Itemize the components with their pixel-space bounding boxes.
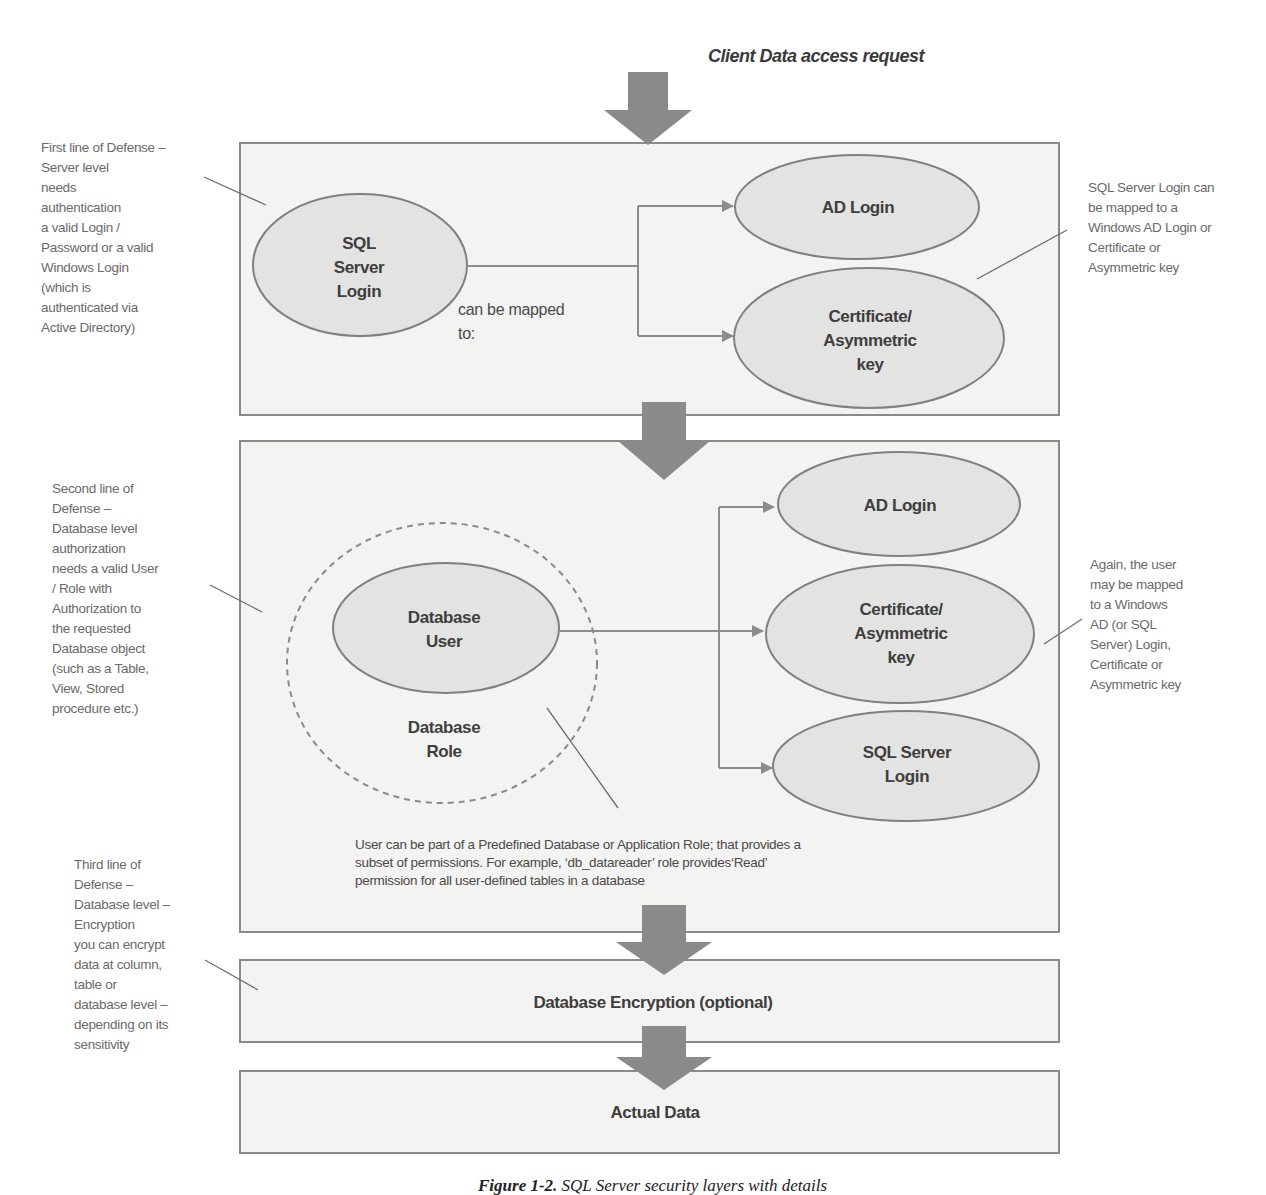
actual-data-label: Actual Data — [610, 1103, 700, 1122]
ad-login-label: AD Login — [822, 198, 894, 217]
db-certificate-line-1: Certificate/ — [859, 600, 943, 619]
database-user-line-2: User — [426, 632, 463, 651]
annotation-second-line-of-defense: Second line of Defense – Database level … — [52, 479, 158, 719]
db-sql-login-line-2: Login — [885, 767, 929, 786]
flow-arrow-request — [604, 72, 692, 145]
security-layers-diagram: SQL Server Login can be mapped to: AD Lo… — [0, 0, 1266, 1195]
figure-caption: Figure 1-2. SQL Server security layers w… — [478, 1176, 827, 1195]
database-user-node — [333, 563, 559, 693]
certificate-line-2: Asymmetric — [823, 331, 916, 350]
certificate-line-1: Certificate/ — [828, 307, 912, 326]
sql-server-login-line-3: Login — [337, 282, 381, 301]
db-sql-login-line-1: SQL Server — [863, 743, 952, 762]
figure-caption-text: SQL Server security layers with details — [562, 1176, 828, 1195]
certificate-line-3: key — [856, 355, 884, 374]
db-sql-server-login-node — [773, 711, 1039, 821]
mapped-label-line-1: can be mapped — [458, 301, 564, 318]
sql-server-login-line-1: SQL — [342, 234, 376, 253]
database-role-line-1: Database — [408, 718, 480, 737]
figure-caption-label: Figure 1-2. — [478, 1176, 557, 1195]
db-certificate-line-2: Asymmetric — [854, 624, 947, 643]
db-certificate-line-3: key — [887, 648, 915, 667]
annotation-third-line-of-defense: Third line of Defense – Database level –… — [74, 855, 170, 1055]
annotation-user-mapping: Again, the user may be mapped to a Windo… — [1090, 555, 1183, 695]
database-user-line-1: Database — [408, 608, 480, 627]
database-role-note: User can be part of a Predefined Databas… — [355, 836, 801, 890]
db-ad-login-label: AD Login — [864, 496, 936, 515]
sql-server-login-line-2: Server — [334, 258, 385, 277]
encryption-label: Database Encryption (optional) — [533, 993, 772, 1012]
annotation-server-login-mapping: SQL Server Login can be mapped to a Wind… — [1088, 178, 1214, 278]
database-role-line-2: Role — [426, 742, 461, 761]
mapped-label-line-2: to: — [458, 325, 475, 342]
annotation-first-line-of-defense: First line of Defense – Server level nee… — [41, 138, 165, 338]
